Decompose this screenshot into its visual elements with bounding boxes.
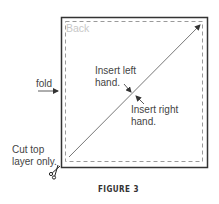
diagonal-cut-line bbox=[69, 25, 200, 157]
fold-label: fold bbox=[36, 78, 52, 90]
right-hand-label-line1: Insert right bbox=[131, 104, 178, 116]
cut-label-line2: layer only. bbox=[12, 156, 57, 168]
right-hand-arrow-icon bbox=[136, 96, 144, 104]
right-hand-label-line2: hand. bbox=[131, 116, 156, 128]
figure-caption: FIGURE 3 bbox=[98, 184, 139, 194]
left-hand-arrow-icon bbox=[124, 84, 131, 92]
left-hand-label-line1: Insert left bbox=[95, 65, 136, 77]
cut-label-line1: Cut top bbox=[12, 144, 44, 156]
left-hand-label-line2: hand. bbox=[95, 77, 120, 89]
panel-label-back: Back bbox=[66, 22, 89, 34]
figure-diagram bbox=[0, 0, 219, 204]
